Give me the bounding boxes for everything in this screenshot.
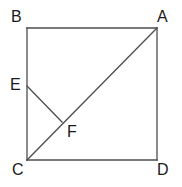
vertex-label-e: E bbox=[10, 77, 21, 93]
vertex-label-f: F bbox=[67, 124, 77, 140]
segment-line-ef bbox=[27, 86, 62, 122]
geometry-canvas bbox=[0, 0, 182, 187]
vertex-label-b: B bbox=[11, 9, 22, 25]
vertex-label-d: D bbox=[157, 162, 169, 178]
diagonal-line-ca bbox=[27, 28, 157, 160]
vertex-label-a: A bbox=[157, 9, 168, 25]
geometry-figure: B A E F C D bbox=[0, 0, 182, 187]
vertex-label-c: C bbox=[12, 162, 24, 178]
